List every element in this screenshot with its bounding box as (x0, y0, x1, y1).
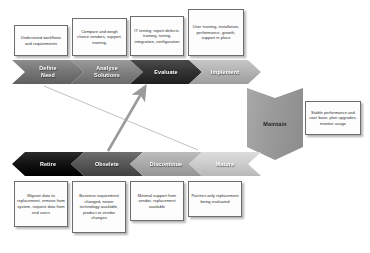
callout-obselete: Business requirement changed, newer tech… (72, 181, 126, 233)
callout-retire: Migrate data to replacement, remove from… (14, 181, 68, 227)
callout-evaluate-text: IT testing, report defects, training, tu… (133, 28, 181, 45)
phase-maintain-label: Maintain (263, 121, 286, 127)
phase-maintain[interactable]: Maintain (247, 88, 303, 160)
phase-mature-label: Mature (216, 161, 235, 168)
lifecycle-diagram-canvas: Understand workflows and requirements Co… (0, 0, 370, 253)
callout-define-need: Understand workflows and requirements (14, 25, 68, 56)
phase-analyse-solutions-label: AnalyseSolutions (94, 65, 120, 79)
callout-maintain: Stable performance and user base, plan u… (305, 101, 361, 135)
callout-obselete-text: Business requirement changed, newer tech… (75, 193, 123, 221)
callout-discontinue-text: Minimal support from vendor, replacement… (133, 193, 181, 210)
phase-discontinue-label: Discontinue (150, 161, 183, 168)
callout-define-need-text: Understand workflows and requirements (17, 35, 65, 46)
callout-mature: Patches only replacement being evaluated (188, 181, 242, 217)
phase-obselete-label: Obselete (95, 161, 119, 168)
phase-retire-label: Retire (40, 161, 56, 168)
phase-mature[interactable]: Mature (189, 152, 261, 176)
phase-define-need-label: DefineNeed (39, 65, 56, 79)
callout-implement-text: User training, installation, performance… (191, 24, 241, 41)
connector-obselete-to-evaluate (108, 87, 145, 151)
callout-discontinue: Minimal support from vendor, replacement… (130, 181, 184, 221)
callout-retire-text: Migrate data to replacement, remove from… (17, 193, 65, 215)
callout-mature-text: Patches only replacement being evaluated (191, 193, 239, 204)
phase-implement-label: Implement (211, 69, 239, 76)
callout-evaluate: IT testing, report defects, training, tu… (130, 16, 184, 56)
callout-analyse-solutions-text: Compare and weigh choice vendors, suppor… (75, 29, 124, 46)
callout-implement: User training, installation, performance… (188, 9, 244, 56)
connector-define-need-to-mature (44, 86, 198, 150)
phase-define-need[interactable]: DefineNeed (12, 60, 84, 84)
phase-evaluate-label: Evaluate (154, 69, 177, 76)
callout-maintain-text: Stable performance and user base, plan u… (308, 110, 358, 127)
callout-analyse-solutions: Compare and weigh choice vendors, suppor… (72, 18, 127, 56)
